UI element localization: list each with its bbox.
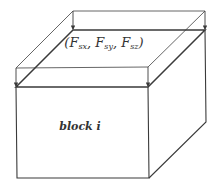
force-sub: sz <box>130 42 138 51</box>
force-base: F <box>121 35 130 50</box>
block-diagram: (Fsx, Fsy, Fsz) block i <box>0 0 217 192</box>
force-component-y: Fsy <box>95 35 113 50</box>
right-face <box>149 30 206 178</box>
block-drawing <box>0 0 217 192</box>
force-component-z: Fsz <box>121 35 138 50</box>
force-base: F <box>95 35 104 50</box>
separator: , <box>113 35 121 50</box>
force-sub: sy <box>104 42 113 51</box>
paren-close: ) <box>139 35 144 50</box>
surface-force-label: (Fsx, Fsy, Fsz) <box>62 35 146 51</box>
force-component-x: Fsx <box>69 35 87 50</box>
block-label: block i <box>50 120 110 133</box>
force-sub: sx <box>78 42 87 51</box>
